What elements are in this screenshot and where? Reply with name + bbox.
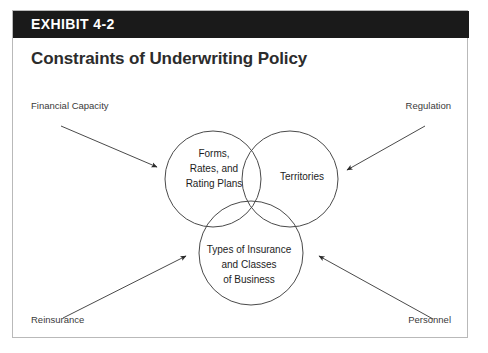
circle-label-line: Rates, and bbox=[171, 161, 257, 176]
circle-label-line: and Classes bbox=[189, 257, 309, 272]
arrow-regulation bbox=[347, 126, 425, 170]
exhibit-card: EXHIBIT 4-2 Constraints of Underwriting … bbox=[12, 10, 468, 338]
exhibit-number-label: EXHIBIT 4-2 bbox=[31, 16, 115, 32]
circle-label-forms-rates-rating-plans: Forms, Rates, and Rating Plans bbox=[171, 146, 257, 191]
constraint-label-personnel: Personnel bbox=[408, 314, 451, 325]
venn-diagram: Forms, Rates, and Rating Plans Territori… bbox=[13, 38, 469, 339]
circle-label-line: Forms, bbox=[171, 146, 257, 161]
constraint-label-regulation: Regulation bbox=[406, 100, 451, 111]
circle-label-territories: Territories bbox=[263, 169, 341, 184]
constraint-label-reinsurance: Reinsurance bbox=[31, 314, 84, 325]
constraint-label-financial-capacity: Financial Capacity bbox=[31, 100, 109, 111]
arrow-financial-capacity bbox=[61, 126, 157, 167]
arrow-personnel bbox=[319, 256, 433, 319]
circle-label-line: Territories bbox=[263, 169, 341, 184]
circle-label-types-of-insurance: Types of Insurance and Classes of Busine… bbox=[189, 242, 309, 287]
circle-label-line: of Business bbox=[189, 272, 309, 287]
circle-label-line: Types of Insurance bbox=[189, 242, 309, 257]
circle-label-line: Rating Plans bbox=[171, 176, 257, 191]
exhibit-header-bar: EXHIBIT 4-2 bbox=[13, 11, 469, 38]
arrow-reinsurance bbox=[63, 256, 186, 318]
